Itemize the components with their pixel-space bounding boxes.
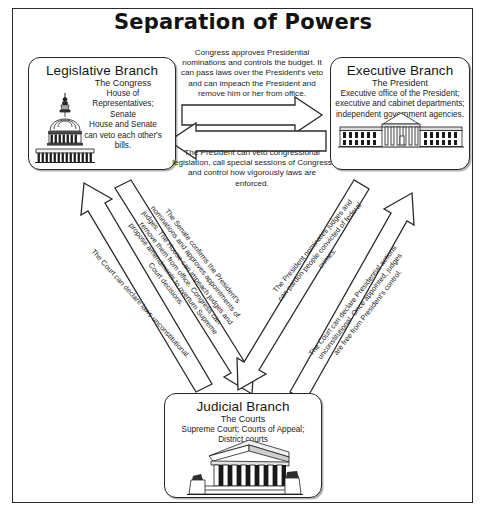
executive-line-4: independent government agencies. [331,110,469,121]
executive-line-2: Executive office of the President; [331,89,469,100]
legislative-lead: The Congress [75,78,171,89]
diagram-canvas: Separation of Powers Legislative Branch … [0,0,486,532]
executive-branch-box[interactable]: Executive Branch The President Executive… [330,57,470,170]
legislative-line-4: House and Senate [75,120,171,131]
executive-branch-description: The President Executive office of the Pr… [331,78,469,120]
legislative-line-3: Senate [75,110,171,121]
legislative-branch-description: The Congress House of Representatives; S… [75,78,171,152]
judicial-branch-description: The Courts Supreme Court; Courts of Appe… [165,414,321,446]
judicial-branch-title: Judicial Branch [165,399,321,414]
judicial-branch-box[interactable]: Judicial Branch The Courts Supreme Court… [164,393,322,498]
legislative-line-5: can veto each other's bills. [75,131,171,152]
executive-lead: The President [331,78,469,89]
executive-line-3: executive and cabinet departments; [331,99,469,110]
legislative-branch-title: Legislative Branch [29,63,175,78]
executive-branch-title: Executive Branch [331,63,469,78]
page-title: Separation of Powers [0,10,486,34]
judicial-lead: The Courts [165,414,321,425]
legislative-line-2: House of Representatives; [75,89,171,110]
note-congress-to-president: Congress approves Presidential nominatio… [176,48,328,99]
judicial-line-3: District courts [165,435,321,446]
supreme-court-building-icon [187,438,303,496]
judicial-line-2: Supreme Court; Courts of Appeal; [165,425,321,436]
note-president-to-congress: The President can veto congressional leg… [172,148,332,189]
legislative-branch-box[interactable]: Legislative Branch The Congress House of… [28,57,176,170]
